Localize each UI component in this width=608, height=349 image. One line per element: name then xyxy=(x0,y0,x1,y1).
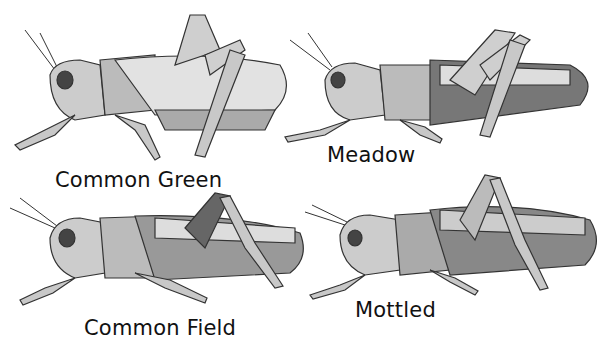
grasshopper-mottled-illustration xyxy=(300,170,605,300)
label-common-field: Common Field xyxy=(84,316,236,340)
label-mottled: Mottled xyxy=(355,298,436,322)
grasshopper-common-field-illustration xyxy=(5,188,315,313)
grasshopper-meadow-illustration xyxy=(280,25,600,150)
label-meadow: Meadow xyxy=(327,143,415,167)
grasshopper-common-green-illustration xyxy=(5,5,305,170)
